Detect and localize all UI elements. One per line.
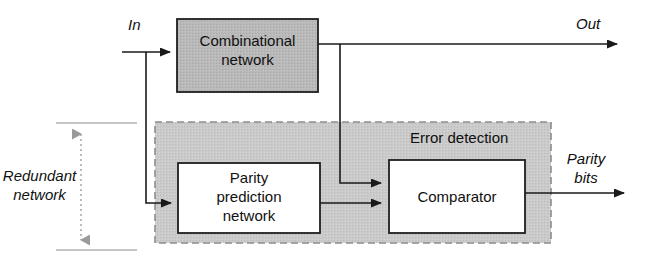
in-signal-label: In <box>128 15 141 34</box>
parity-prediction-network-block <box>178 163 320 233</box>
redundant-network-label: Redundant network <box>2 166 77 204</box>
diagram-vector-layer <box>0 0 669 265</box>
combinational-network-block <box>177 19 318 92</box>
comparator-block <box>389 160 525 233</box>
block-diagram: Combinational network Parity prediction … <box>0 0 669 265</box>
out-signal-label: Out <box>576 14 600 33</box>
error-detection-label: Error detection <box>410 128 540 147</box>
parity-bits-signal-label: Parity bits <box>556 149 616 187</box>
